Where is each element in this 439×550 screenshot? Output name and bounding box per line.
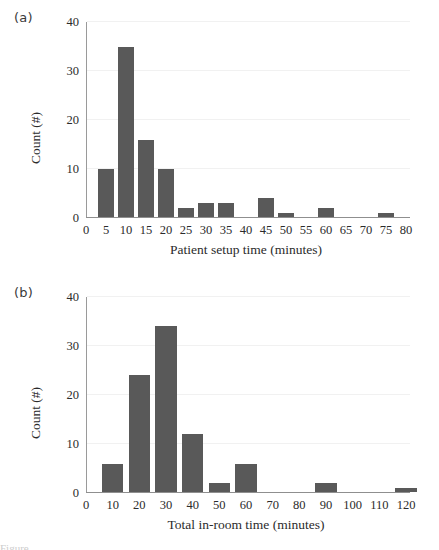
x-tick-label: 45 [260, 223, 273, 238]
x-tick-label: 60 [320, 223, 333, 238]
y-axis-line-a [86, 22, 87, 218]
y-tick-label: 20 [67, 113, 80, 128]
y-tick-label: 30 [67, 64, 80, 79]
bar [98, 169, 114, 217]
bar-series-a [86, 22, 406, 218]
x-tick-label: 40 [186, 498, 199, 513]
y-tick-label: 0 [73, 486, 79, 501]
x-tick-label: 100 [343, 498, 362, 513]
y-tick-label: 30 [67, 339, 80, 354]
y-tick-label: 40 [67, 15, 80, 30]
y-axis-title-a: Count (#) [28, 111, 44, 163]
x-tick-label: 15 [140, 223, 153, 238]
bar [258, 198, 274, 216]
figure-caption-partial: Figure [0, 542, 439, 550]
x-tick-label: 20 [160, 223, 173, 238]
x-tick-label: 0 [83, 498, 89, 513]
x-tick-label: 50 [213, 498, 226, 513]
x-tick-label: 75 [380, 223, 393, 238]
y-tick-label: 10 [67, 162, 80, 177]
y-tick-label: 40 [67, 290, 80, 305]
panel-label-a: (a) [14, 10, 33, 25]
bar-series-b [86, 297, 406, 493]
bar [209, 483, 230, 491]
bar [198, 203, 214, 216]
plot-area-a: 010203040 051015202530354045505560657075… [86, 22, 406, 218]
bar [102, 464, 123, 492]
x-axis-line-b [86, 492, 410, 493]
x-tick-label: 5 [103, 223, 109, 238]
x-tick-label: 20 [133, 498, 146, 513]
bar [218, 203, 234, 216]
bar [315, 483, 336, 491]
x-tick-label: 70 [266, 498, 279, 513]
bar [138, 140, 154, 217]
x-tick-label: 120 [397, 498, 416, 513]
y-axis-line-b [86, 297, 87, 493]
x-tick-label: 25 [180, 223, 193, 238]
bar [178, 208, 194, 216]
bar [318, 208, 334, 216]
y-tick-label: 0 [73, 211, 79, 226]
x-axis-title-a: Patient setup time (minutes) [86, 242, 406, 258]
panel-label-b: (b) [14, 285, 33, 300]
x-tick-label: 70 [360, 223, 373, 238]
x-tick-label: 40 [240, 223, 253, 238]
x-axis-ticks-b: 0102030405060708090100110120 [86, 498, 406, 516]
bar [155, 326, 176, 491]
x-tick-label: 65 [340, 223, 353, 238]
bar [129, 375, 150, 491]
x-axis-line-a [86, 217, 410, 218]
x-axis-title-b: Total in-room time (minutes) [86, 517, 406, 533]
x-tick-label: 80 [293, 498, 306, 513]
x-tick-label: 60 [240, 498, 253, 513]
y-tick-label: 20 [67, 388, 80, 403]
x-tick-label: 10 [106, 498, 119, 513]
x-tick-label: 55 [300, 223, 313, 238]
x-tick-label: 110 [370, 498, 388, 513]
bar [182, 434, 203, 491]
x-tick-label: 80 [400, 223, 413, 238]
y-axis-title-b: Count (#) [28, 386, 44, 438]
x-tick-label: 10 [120, 223, 133, 238]
x-tick-label: 50 [280, 223, 293, 238]
x-tick-label: 30 [160, 498, 173, 513]
bar [235, 464, 256, 492]
x-tick-label: 90 [320, 498, 333, 513]
bar [158, 169, 174, 217]
plot-area-b: 010203040 0102030405060708090100110120 T… [86, 297, 406, 493]
chart-panel-a: (a) Count (#) 010203040 0510152025303540… [0, 0, 439, 275]
x-tick-label: 0 [83, 223, 89, 238]
x-tick-label: 35 [220, 223, 233, 238]
x-tick-label: 30 [200, 223, 213, 238]
chart-panel-b: (b) Count (#) 010203040 0102030405060708… [0, 275, 439, 550]
x-axis-ticks-a: 05101520253035404550556065707580 [86, 223, 406, 241]
bar [118, 47, 134, 217]
y-tick-label: 10 [67, 437, 80, 452]
